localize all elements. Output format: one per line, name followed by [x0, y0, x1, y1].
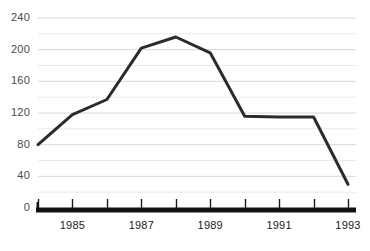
data-series-line: [38, 37, 348, 184]
line-chart: 24020016012080400 19851987198919911993: [0, 0, 370, 251]
chart-plot-area: [0, 0, 370, 251]
y-axis-tick-label: 0: [0, 202, 30, 213]
y-axis-tick-label: 200: [0, 44, 30, 55]
y-axis-tick-label: 80: [0, 139, 30, 150]
x-axis-tick-label: 1985: [50, 220, 94, 231]
x-axis-tick-label: 1987: [119, 220, 163, 231]
y-axis-tick-label: 120: [0, 107, 30, 118]
y-axis-tick-label: 240: [0, 12, 30, 23]
x-axis-tick-label: 1993: [326, 220, 370, 231]
x-axis-ticks: [39, 199, 349, 208]
y-axis-tick-label: 160: [0, 75, 30, 86]
x-axis-tick-label: 1989: [188, 220, 232, 231]
y-axis-tick-label: 40: [0, 170, 30, 181]
x-axis-tick-label: 1991: [257, 220, 301, 231]
